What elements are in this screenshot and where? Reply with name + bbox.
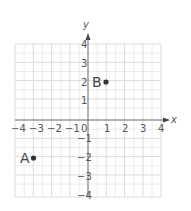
x-tick: −2 bbox=[47, 124, 62, 134]
grid-svg bbox=[0, 0, 191, 211]
y-axis-label: y bbox=[83, 20, 89, 30]
x-tick: 2 bbox=[122, 124, 128, 134]
point-a-label: A bbox=[20, 151, 30, 165]
point-a-dot bbox=[31, 155, 36, 160]
x-tick: 3 bbox=[140, 124, 146, 134]
y-tick: 3 bbox=[81, 59, 87, 69]
coordinate-plane: x y −4 −3 −2 −1 0 1 2 3 4 4 3 2 1 −1 −2 … bbox=[0, 0, 191, 211]
y-tick: −4 bbox=[77, 191, 92, 201]
point-b-dot bbox=[103, 79, 108, 84]
x-axis-arrow-icon bbox=[163, 118, 170, 123]
y-tick: −3 bbox=[77, 172, 92, 182]
x-tick: 4 bbox=[158, 124, 164, 134]
point-b-label: B bbox=[92, 75, 102, 89]
y-tick: 4 bbox=[81, 40, 87, 50]
x-tick: −3 bbox=[29, 124, 44, 134]
y-tick: 1 bbox=[81, 96, 87, 106]
y-tick: −1 bbox=[77, 134, 92, 144]
x-tick: 1 bbox=[104, 124, 110, 134]
x-tick: −4 bbox=[11, 124, 26, 134]
y-tick: −2 bbox=[77, 153, 92, 163]
x-axis-label: x bbox=[171, 115, 177, 125]
y-tick: 2 bbox=[81, 78, 87, 88]
